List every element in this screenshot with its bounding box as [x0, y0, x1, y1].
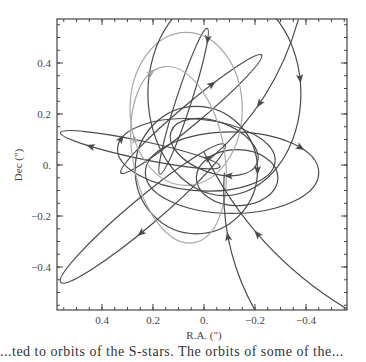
- direction-arrow-icon: [254, 98, 265, 109]
- y-tick-label: 0.4: [37, 57, 51, 69]
- y-axis-title: Dec ("): [12, 149, 25, 182]
- x-tick-label: 0.2: [146, 314, 160, 326]
- y-tick-label: 0.2: [37, 108, 51, 120]
- x-tick-label: −0.4: [296, 314, 316, 326]
- direction-arrows-layer: [85, 35, 306, 242]
- plot-frame: [57, 19, 347, 310]
- x-axis: 0.40.20.−0.2−0.4: [64, 19, 345, 326]
- y-tick-label: −0.4: [31, 261, 51, 273]
- direction-arrow-icon: [85, 142, 96, 151]
- orbit-path: [114, 47, 268, 181]
- direction-arrow-icon: [224, 231, 233, 241]
- x-tick-label: 0.4: [95, 314, 109, 326]
- orbit-path: [135, 106, 257, 234]
- direction-arrow-icon: [206, 79, 217, 90]
- figure-caption: ...ted to orbits of the S-stars. The orb…: [0, 344, 366, 360]
- x-axis-title: R.A. ("): [186, 329, 222, 342]
- y-axis: 0.40.20.−0.2−0.4: [31, 25, 347, 306]
- orbit-chart: 0.40.20.−0.2−0.4 0.40.20.−0.2−0.4 R.A. (…: [0, 0, 366, 362]
- x-tick-label: −0.2: [245, 314, 265, 326]
- y-tick-label: 0.: [43, 159, 52, 171]
- y-tick-label: −0.2: [31, 210, 51, 222]
- orbits-layer: [52, 0, 350, 310]
- direction-arrow-icon: [295, 142, 306, 153]
- x-tick-label: 0.: [200, 314, 209, 326]
